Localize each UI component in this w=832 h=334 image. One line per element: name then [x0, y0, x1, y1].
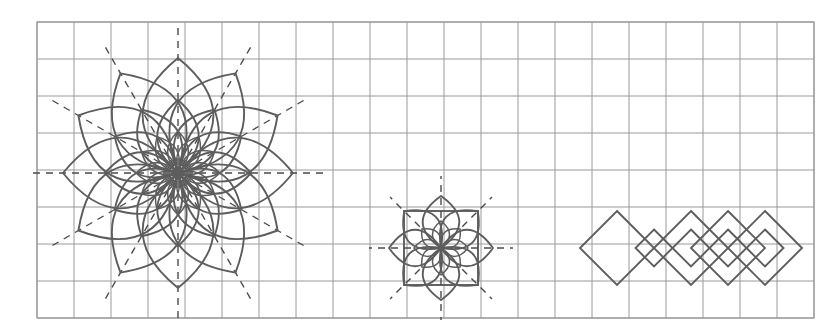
page-background: [0, 0, 832, 334]
figure-canvas: [0, 0, 832, 334]
small-rosette-center-hub: [438, 245, 444, 251]
large-rosette-center-hub: [172, 167, 184, 179]
geometry-illustration: [0, 0, 832, 334]
